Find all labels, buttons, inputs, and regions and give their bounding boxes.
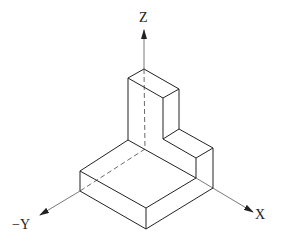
upright-top-face	[128, 69, 179, 98]
step-back-edge	[179, 129, 213, 148]
isometric-diagram: Z X −Y	[0, 0, 281, 240]
x-axis-label: X	[255, 208, 265, 222]
step-inner-edge	[163, 139, 196, 158]
axes	[40, 30, 253, 215]
base-bottom-left-edge	[80, 191, 146, 229]
step-top-left	[163, 129, 179, 139]
hidden-y-edge	[80, 149, 145, 191]
visible-edges	[80, 69, 213, 229]
diagram-canvas	[0, 0, 281, 240]
z-axis-label: Z	[139, 11, 148, 25]
base-inner-diag	[128, 140, 196, 178]
base-bottom-right-edge	[146, 188, 213, 229]
step-top-right	[196, 148, 213, 158]
x-axis	[196, 178, 253, 212]
base-front-top-edge	[80, 171, 146, 208]
base-back-left-edge	[80, 140, 128, 171]
neg-y-axis	[40, 191, 80, 215]
hidden-lines	[80, 69, 145, 191]
y-axis-label: −Y	[12, 218, 30, 232]
hidden-z-edge	[144, 69, 145, 149]
